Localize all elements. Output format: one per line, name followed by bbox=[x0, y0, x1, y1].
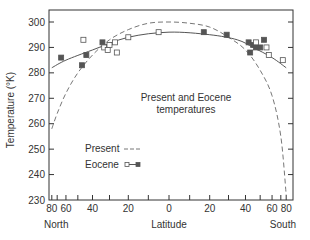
y-tick-label: 250 bbox=[28, 144, 45, 155]
x-tick-label: 40 bbox=[240, 203, 252, 214]
x-axis-label-north: North bbox=[44, 219, 68, 230]
legend-label-eocene: Eocene bbox=[85, 159, 119, 170]
eocene-filled-square-marker bbox=[79, 63, 84, 68]
x-tick-label: 80 bbox=[281, 203, 293, 214]
y-axis-label: Temperature (°K) bbox=[5, 72, 16, 148]
eocene-filled-square-marker bbox=[258, 45, 263, 50]
legend-open-square-icon bbox=[125, 163, 129, 167]
x-axis-label: Latitude bbox=[151, 219, 187, 230]
y-tick-label: 290 bbox=[28, 42, 45, 53]
eocene-filled-square-marker bbox=[248, 50, 253, 55]
x-tick-label: 0 bbox=[166, 203, 172, 214]
temperature-latitude-chart: 230240250260270280290300 806040200204060… bbox=[0, 0, 310, 240]
eocene-open-square-marker bbox=[266, 53, 271, 58]
eocene-open-square-marker bbox=[107, 42, 112, 47]
eocene-open-square-marker bbox=[264, 45, 269, 50]
legend-label-present: Present bbox=[85, 143, 120, 154]
y-tick-label: 300 bbox=[28, 17, 45, 28]
eocene-open-square-marker bbox=[81, 37, 86, 42]
eocene-filled-square-marker bbox=[100, 40, 105, 45]
y-tick-label: 260 bbox=[28, 118, 45, 129]
eocene-open-square-marker bbox=[126, 35, 131, 40]
legend: Present Eocene bbox=[85, 143, 142, 170]
x-tick-label: 60 bbox=[60, 203, 72, 214]
y-tick-label: 240 bbox=[28, 169, 45, 180]
y-tick-label: 270 bbox=[28, 93, 45, 104]
x-tick-label: 80 bbox=[46, 203, 58, 214]
eocene-open-square-marker bbox=[105, 47, 110, 52]
y-tick-label: 280 bbox=[28, 67, 45, 78]
chart-annotation-line1: Present and Eocene bbox=[141, 92, 232, 103]
x-tick-label: 20 bbox=[204, 203, 216, 214]
x-tick-label: 60 bbox=[266, 203, 278, 214]
eocene-filled-square-marker bbox=[84, 53, 89, 58]
eocene-open-square-marker bbox=[280, 58, 285, 63]
eocene-filled-square-marker bbox=[59, 55, 64, 60]
eocene-open-square-marker bbox=[156, 30, 161, 35]
legend-filled-square-icon bbox=[136, 163, 140, 167]
x-tick-label: 20 bbox=[123, 203, 135, 214]
eocene-open-square-marker bbox=[114, 50, 119, 55]
chart-container: 230240250260270280290300 806040200204060… bbox=[0, 0, 310, 240]
y-tick-label: 230 bbox=[28, 195, 45, 206]
eocene-open-square-marker bbox=[254, 40, 259, 45]
eocene-filled-square-marker bbox=[224, 32, 229, 37]
eocene-open-square-marker bbox=[112, 40, 117, 45]
x-axis-ticks: 80604020020406080 bbox=[46, 195, 292, 214]
x-axis-label-south: South bbox=[270, 219, 296, 230]
eocene-filled-square-marker bbox=[262, 37, 267, 42]
x-tick-label: 40 bbox=[87, 203, 99, 214]
chart-annotation-line2: temperatures bbox=[157, 104, 216, 115]
eocene-filled-square-marker bbox=[201, 30, 206, 35]
